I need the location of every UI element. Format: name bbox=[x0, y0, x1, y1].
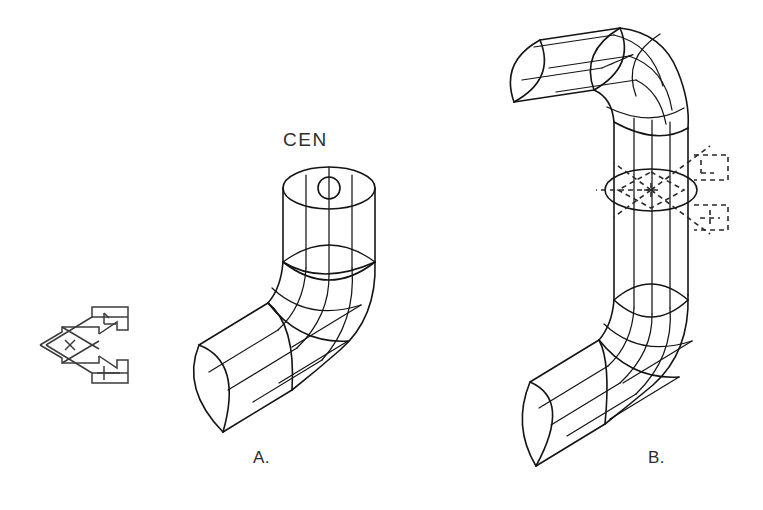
grip-bracket-upper[interactable] bbox=[694, 155, 728, 180]
crosshair-arm-lower-left bbox=[614, 190, 651, 217]
figure-b-wireframe-double-elbow[interactable] bbox=[510, 28, 697, 466]
figure-a-wireframe-elbow[interactable] bbox=[194, 167, 376, 432]
ucs-center-glyph bbox=[65, 340, 75, 350]
isometric-crosshair-ucs-icon[interactable] bbox=[40, 307, 128, 383]
center-osnap-label: CEN bbox=[283, 129, 328, 151]
crosshair-arm-upper-right bbox=[651, 146, 710, 190]
crosshair-arm-upper-left bbox=[614, 163, 651, 190]
ucs-y-axis-glyph bbox=[104, 313, 116, 324]
technical-drawing-canvas bbox=[0, 0, 763, 510]
grip-bracket-lower[interactable] bbox=[694, 205, 728, 230]
figure-a-caption: A. bbox=[253, 448, 270, 468]
crosshair-cursor-group[interactable] bbox=[596, 146, 710, 234]
figure-b-caption: B. bbox=[648, 448, 665, 468]
crosshair-arm-lower-right bbox=[651, 190, 710, 234]
